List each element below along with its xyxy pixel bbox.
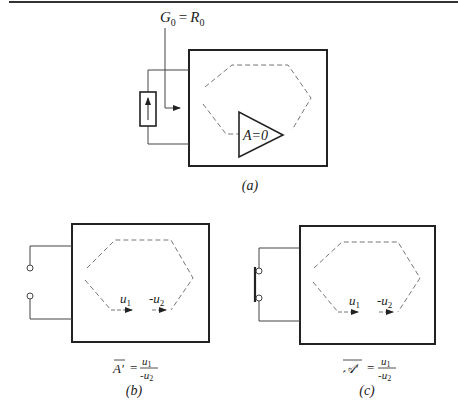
label-u1-b: u1 xyxy=(120,291,131,308)
diagram-canvas: A=0 G0=R0 (a) u1 -u2 A' = u1 xyxy=(0,0,458,415)
terminal-top-c xyxy=(256,268,262,274)
wire-bottom-c xyxy=(259,301,300,321)
svg-text:𝒜': 𝒜' xyxy=(343,361,359,376)
svg-text:G0=R0: G0=R0 xyxy=(160,9,204,28)
svg-text:=: = xyxy=(130,360,137,375)
wire-top-b xyxy=(30,246,72,265)
caption-a: (a) xyxy=(242,178,259,194)
terminal-top-b xyxy=(27,265,33,271)
formula-b: A' = u1 -u2 xyxy=(112,355,158,383)
label-g0-r0: G0=R0 xyxy=(160,9,204,28)
svg-text:u1: u1 xyxy=(381,355,391,369)
panel-c: u1 -u2 𝒜' = u1 -u2 (c) xyxy=(255,226,435,399)
network-box-a xyxy=(189,50,327,166)
svg-text:=: = xyxy=(367,360,374,375)
panel-b: u1 -u2 A' = u1 -u2 (b) xyxy=(27,224,209,399)
wire-top-c xyxy=(259,248,300,268)
loop-path-a xyxy=(205,65,311,130)
svg-text:-u2: -u2 xyxy=(378,369,391,383)
svg-text:A': A' xyxy=(112,361,124,376)
network-box-b xyxy=(72,224,209,342)
wire-top-a xyxy=(148,70,189,92)
terminal-bottom-c xyxy=(256,295,262,301)
formula-c: 𝒜' = u1 -u2 xyxy=(343,355,396,383)
panel-a: A=0 G0=R0 (a) xyxy=(140,9,327,194)
caption-b: (b) xyxy=(126,383,143,399)
network-box-c xyxy=(300,226,435,344)
svg-text:-u2: -u2 xyxy=(140,369,153,383)
terminal-bottom-b xyxy=(27,293,33,299)
label-u1-c: u1 xyxy=(349,293,360,310)
caption-c: (c) xyxy=(359,383,375,399)
amplifier-label: A=0 xyxy=(242,128,268,143)
svg-text:u1: u1 xyxy=(142,355,152,369)
pointer-arrow xyxy=(165,28,180,108)
wire-bottom-b xyxy=(30,299,72,319)
loop-path-b xyxy=(87,240,193,310)
wire-bottom-a xyxy=(148,126,189,144)
label-u2-c: -u2 xyxy=(377,293,392,310)
label-u2-b: -u2 xyxy=(149,291,164,308)
